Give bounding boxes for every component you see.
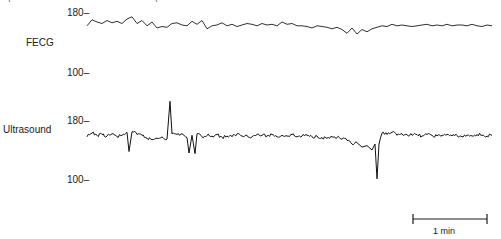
scale-bar <box>413 214 487 224</box>
fecg-trace-line <box>87 17 492 34</box>
heart-rate-traces <box>0 0 501 239</box>
ultrasound-trace-line <box>87 101 492 179</box>
scale-bar-label: 1 min <box>433 226 455 236</box>
